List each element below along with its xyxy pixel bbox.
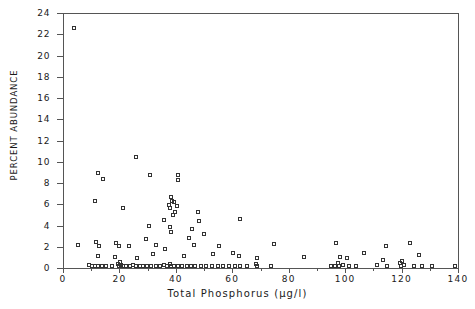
- x-tick-minor: [373, 268, 374, 271]
- x-axis-title: Total Phosphorus (µg/l): [0, 288, 475, 299]
- data-point: [169, 230, 173, 234]
- data-point: [135, 256, 139, 260]
- x-tick: [232, 268, 233, 273]
- data-point: [272, 242, 276, 246]
- data-point: [171, 213, 175, 217]
- x-tick-label: 40: [156, 274, 196, 284]
- plot-frame-right: [458, 13, 459, 269]
- x-tick-minor: [317, 268, 318, 271]
- data-point: [238, 217, 242, 221]
- x-tick-label: 20: [99, 274, 139, 284]
- data-point: [176, 178, 180, 182]
- x-tick-label: 100: [325, 274, 365, 284]
- data-point: [163, 247, 167, 251]
- x-tick-minor: [430, 268, 431, 271]
- data-point: [204, 264, 208, 268]
- data-point: [453, 264, 457, 268]
- data-point: [420, 264, 424, 268]
- data-point: [381, 258, 385, 262]
- data-point: [110, 264, 114, 268]
- y-tick-label: 24: [0, 9, 50, 18]
- y-tick-label: 20: [0, 52, 50, 61]
- data-point: [104, 264, 108, 268]
- data-point: [182, 254, 186, 258]
- data-point: [190, 227, 194, 231]
- x-tick: [402, 268, 403, 273]
- data-point: [196, 210, 200, 214]
- data-point: [345, 256, 349, 260]
- data-point: [375, 263, 379, 267]
- data-point: [175, 204, 179, 208]
- data-point: [187, 236, 191, 240]
- data-point: [202, 232, 206, 236]
- data-point: [93, 199, 97, 203]
- data-point: [96, 171, 100, 175]
- data-point: [402, 263, 406, 267]
- data-point: [347, 264, 351, 268]
- data-point: [144, 237, 148, 241]
- y-axis-title: PERCENT ABUNDANCE: [9, 25, 19, 225]
- y-tick-label: 14: [0, 115, 50, 124]
- data-point: [197, 219, 201, 223]
- y-tick-label: 0: [0, 264, 50, 273]
- data-point: [211, 252, 215, 256]
- data-point: [430, 264, 434, 268]
- data-point: [341, 263, 345, 267]
- data-point: [269, 264, 273, 268]
- data-point: [134, 155, 138, 159]
- data-point: [227, 264, 231, 268]
- y-tick-label: 4: [0, 222, 50, 231]
- x-tick-minor: [148, 268, 149, 271]
- y-tick-label: 10: [0, 158, 50, 167]
- y-tick-label: 2: [0, 243, 50, 252]
- data-point: [101, 177, 105, 181]
- data-point: [237, 254, 241, 258]
- data-point: [417, 253, 421, 257]
- y-tick-label: 12: [0, 137, 50, 146]
- data-point: [154, 243, 158, 247]
- data-point: [384, 244, 388, 248]
- data-point: [408, 241, 412, 245]
- x-tick-label: 60: [212, 274, 252, 284]
- data-point: [221, 264, 225, 268]
- data-point: [168, 225, 172, 229]
- data-point: [302, 255, 306, 259]
- scatter-chart: 024681012141618202224 020406080100120140…: [0, 0, 475, 309]
- x-tick-label: 0: [43, 274, 83, 284]
- data-point: [245, 264, 249, 268]
- data-point: [199, 264, 203, 268]
- x-tick-minor: [91, 268, 92, 271]
- y-tick-label: 18: [0, 73, 50, 82]
- data-point: [151, 252, 155, 256]
- data-point: [362, 251, 366, 255]
- x-tick-label: 140: [438, 274, 475, 284]
- x-tick: [119, 268, 120, 273]
- data-point: [76, 243, 80, 247]
- data-point: [231, 251, 235, 255]
- y-tick-label: 22: [0, 30, 50, 39]
- data-point: [255, 264, 259, 268]
- x-tick: [176, 268, 177, 273]
- x-tick: [63, 268, 64, 273]
- data-point: [97, 244, 101, 248]
- data-point: [148, 173, 152, 177]
- data-point: [255, 256, 259, 260]
- x-tick: [345, 268, 346, 273]
- data-point: [216, 264, 220, 268]
- x-tick-minor: [261, 268, 262, 271]
- y-tick-label: 6: [0, 200, 50, 209]
- data-point: [354, 264, 358, 268]
- data-point: [96, 254, 100, 258]
- data-point: [121, 206, 125, 210]
- data-point: [176, 173, 180, 177]
- x-tick: [458, 268, 459, 273]
- data-point: [117, 244, 121, 248]
- x-tick-label: 80: [269, 274, 309, 284]
- y-tick-label: 8: [0, 179, 50, 188]
- data-point: [168, 206, 172, 210]
- data-point: [193, 264, 197, 268]
- plot-area: [63, 13, 458, 268]
- data-point: [217, 244, 221, 248]
- data-point: [238, 264, 242, 268]
- x-tick-minor: [204, 268, 205, 271]
